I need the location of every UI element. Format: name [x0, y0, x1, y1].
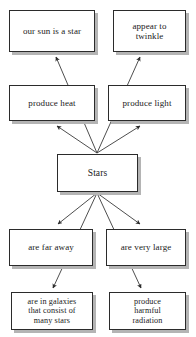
node-label: produce harmful radiation — [131, 297, 165, 325]
node-label: appear to twinkle — [130, 21, 168, 41]
concept-map: our sun is a star appear to twinkle prod… — [0, 0, 196, 337]
node-are-very-large[interactable]: are very large — [106, 229, 186, 266]
edge-stars-to-light — [97, 126, 140, 153]
node-label: our sun is a star — [21, 26, 83, 36]
node-label: Stars — [86, 168, 110, 179]
node-appear-to-twinkle[interactable]: appear to twinkle — [113, 10, 186, 52]
node-label: are in galaxies that consist of many sta… — [26, 297, 79, 325]
node-produce-light[interactable]: produce light — [108, 85, 186, 121]
node-our-sun-is-a-star[interactable]: our sun is a star — [9, 10, 95, 52]
node-label: are far away — [26, 242, 76, 252]
node-stars[interactable]: Stars — [57, 154, 138, 192]
node-are-in-galaxies[interactable]: are in galaxies that consist of many sta… — [11, 292, 93, 330]
node-are-far-away[interactable]: are far away — [9, 229, 93, 266]
edge-stars-to-large — [97, 193, 140, 224]
node-produce-harmful-radiation[interactable]: produce harmful radiation — [109, 292, 186, 330]
node-label: are very large — [119, 242, 174, 252]
node-label: produce light — [120, 98, 173, 108]
node-produce-heat[interactable]: produce heat — [9, 85, 95, 121]
edge-stars-to-heat — [57, 126, 97, 153]
edge-stars-to-faraway — [58, 193, 97, 224]
node-label: produce heat — [26, 98, 77, 108]
